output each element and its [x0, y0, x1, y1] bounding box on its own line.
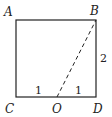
length-label-od: 1 [75, 84, 82, 97]
length-label-co: 1 [35, 84, 42, 97]
vertex-label-c: C [5, 102, 14, 116]
length-label-bd: 2 [100, 52, 107, 65]
vertex-label-a: A [3, 5, 13, 19]
vertex-label-b: B [89, 4, 99, 18]
geometry-figure: A B C O D 2 1 1 [0, 0, 112, 117]
square [16, 20, 96, 97]
vertex-label-o: O [52, 102, 62, 116]
vertex-label-d: D [92, 102, 103, 116]
